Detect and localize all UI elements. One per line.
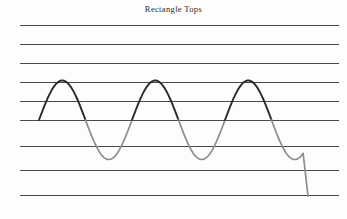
wave-rising-edge [39, 81, 86, 121]
wave-rising-edge [132, 81, 179, 121]
figure-canvas [0, 0, 347, 219]
sine-waveform [39, 81, 308, 197]
wave-falling-edge [179, 120, 226, 160]
wave-falling-edge [86, 120, 133, 160]
figure-page: Rectangle Tops [0, 0, 347, 219]
wave-falling-tail [272, 120, 309, 196]
wave-rising-edge [225, 81, 272, 121]
ruled-lines [20, 26, 339, 196]
